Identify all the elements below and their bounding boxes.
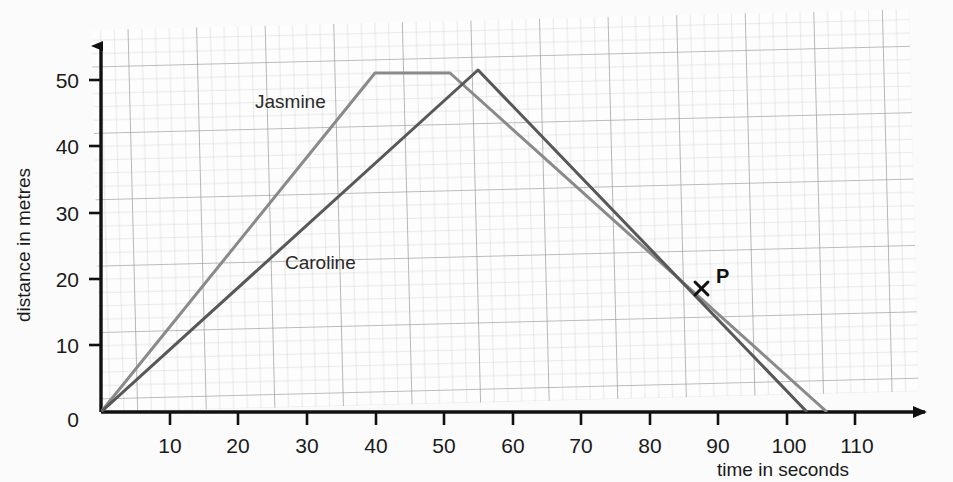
y-axis-title: distance in metres — [13, 168, 34, 322]
graph-figure: 50 40 30 20 10 0 10 20 30 40 50 — [0, 0, 953, 482]
y-tick-label-20: 20 — [56, 268, 79, 291]
x-tick-label-90: 90 — [706, 434, 729, 457]
x-tick-label-110: 110 — [840, 434, 873, 457]
x-tick-label-20: 20 — [226, 434, 249, 457]
annotation-label-p: P — [716, 265, 729, 287]
x-tick-label-80: 80 — [638, 434, 661, 457]
y-tick-label-0: 0 — [67, 408, 79, 431]
y-tick-label-10: 10 — [56, 334, 79, 357]
x-axis-title: time in seconds — [717, 459, 849, 480]
distance-time-graph: 50 40 30 20 10 0 10 20 30 40 50 — [0, 0, 953, 482]
x-tick-label-40: 40 — [364, 434, 387, 457]
series-label-caroline: Caroline — [285, 252, 356, 273]
series-label-jasmine: Jasmine — [255, 91, 326, 112]
x-tick-label-50: 50 — [432, 434, 455, 457]
x-tick-label-10: 10 — [158, 434, 181, 457]
y-tick-label-50: 50 — [56, 69, 79, 92]
x-tick-label-60: 60 — [501, 434, 524, 457]
y-tick-label-40: 40 — [56, 135, 79, 158]
graph-paper-grid — [91, 9, 918, 412]
x-tick-label-30: 30 — [295, 434, 318, 457]
x-tick-label-70: 70 — [569, 434, 592, 457]
grid-area — [91, 9, 918, 412]
y-tick-label-30: 30 — [56, 202, 79, 225]
x-tick-label-100: 100 — [771, 434, 806, 457]
